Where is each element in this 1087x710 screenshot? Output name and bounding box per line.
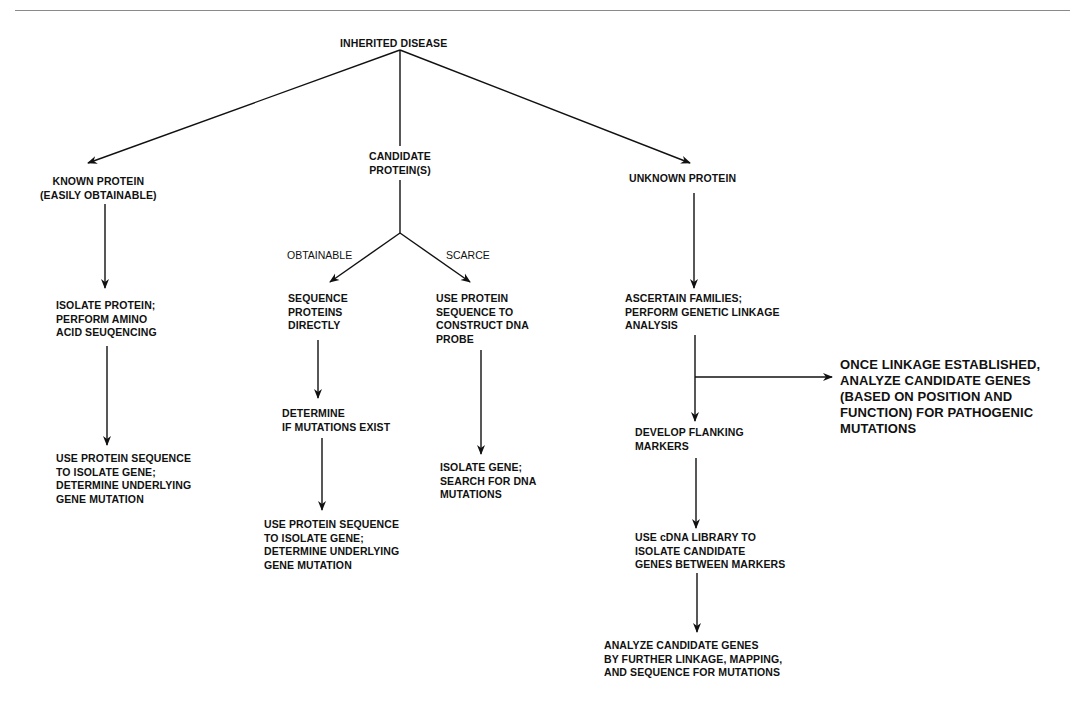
edge-root-known [88,50,400,163]
node-ascertain-families: ASCERTAIN FAMILIES; PERFORM GENETIC LINK… [625,292,780,333]
node-known-use-sequence: USE PROTEIN SEQUENCE TO ISOLATE GENE; DE… [56,452,191,506]
node-known-protein: KNOWN PROTEIN (EASILY OBTAINABLE) [40,175,157,202]
edge-root-unknown [400,50,690,163]
node-construct-probe: USE PROTEIN SEQUENCE TO CONSTRUCT DNA PR… [436,292,529,346]
node-unknown-protein: UNKNOWN PROTEIN [629,172,736,186]
node-candidate-use-sequence: USE PROTEIN SEQUENCE TO ISOLATE GENE; DE… [264,518,399,572]
node-isolate-protein: ISOLATE PROTEIN; PERFORM AMINO ACID SEUQ… [56,299,157,340]
node-cdna-library: USE cDNA LIBRARY TO ISOLATE CANDIDATE GE… [635,531,785,572]
node-develop-flanking-markers: DEVELOP FLANKING MARKERS [635,426,744,453]
node-inherited-disease: INHERITED DISEASE [340,37,447,51]
node-determine-mutations: DETERMINE IF MUTATIONS EXIST [282,407,390,434]
node-once-linkage-established: ONCE LINKAGE ESTABLISHED, ANALYZE CANDID… [840,357,1040,437]
flowchart-edges [0,0,1087,710]
edge-label-scarce: SCARCE [446,249,490,262]
node-analyze-further: ANALYZE CANDIDATE GENES BY FURTHER LINKA… [604,639,782,680]
edge-label-obtainable: OBTAINABLE [287,249,352,262]
node-isolate-gene-search: ISOLATE GENE; SEARCH FOR DNA MUTATIONS [440,461,536,502]
node-candidate-protein: CANDIDATE PROTEIN(S) [369,150,431,177]
node-sequence-directly: SEQUENCE PROTEINS DIRECTLY [288,292,348,333]
